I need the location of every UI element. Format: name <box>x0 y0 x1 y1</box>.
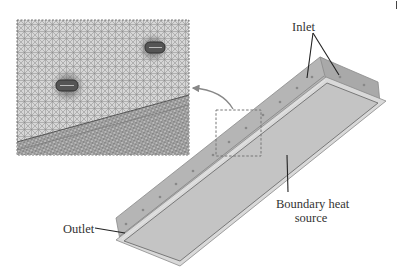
inlet-hole-right-icon <box>138 33 168 63</box>
heat-source-label: Boundary heat source <box>276 197 346 225</box>
heat-source-label-line2: source <box>276 211 346 225</box>
inlet-hole-left-icon <box>51 69 85 103</box>
zoom-arrow <box>193 88 233 109</box>
figure-canvas <box>0 0 404 276</box>
outlet-label: Outlet <box>63 222 94 236</box>
heat-source-label-line1: Boundary heat <box>276 197 346 211</box>
mesh-inset <box>17 20 189 155</box>
inlet-label: Inlet <box>292 20 315 34</box>
